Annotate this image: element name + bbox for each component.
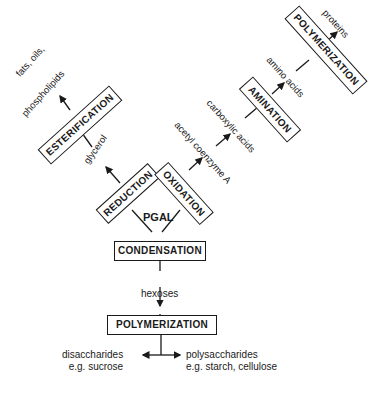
label-polysaccharides-line2: e.g. starch, cellulose bbox=[186, 361, 277, 373]
label-disaccharides-line2: e.g. sucrose bbox=[62, 361, 123, 373]
label-polysaccharides: polysaccharides e.g. starch, cellulose bbox=[186, 349, 277, 372]
label-disaccharides-line1: disaccharides bbox=[62, 349, 123, 361]
process-condensation: CONDENSATION bbox=[114, 241, 206, 261]
label-polysaccharides-line1: polysaccharides bbox=[186, 349, 277, 361]
label-hexoses: hexoses bbox=[141, 288, 178, 300]
label-disaccharides: disaccharides e.g. sucrose bbox=[62, 349, 123, 372]
label-pgal: PGAL bbox=[143, 211, 174, 224]
process-polymerization-bottom: POLYMERIZATION bbox=[107, 315, 217, 335]
